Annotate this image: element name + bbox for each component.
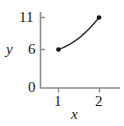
y-axis-tick-label-6: 6 (28, 42, 36, 57)
data-point-marker (97, 15, 102, 20)
data-point-marker (56, 47, 61, 52)
line-chart: 11 6 0 1 2 y x (0, 0, 124, 126)
x-axis-tick-label-2: 2 (95, 94, 103, 109)
x-axis-title: x (71, 107, 78, 122)
y-axis-title: y (6, 42, 13, 57)
origin-label: 0 (28, 80, 36, 95)
x-axis-tick-label-1: 1 (54, 94, 62, 109)
data-curve (59, 18, 100, 50)
y-axis-tick-label-11: 11 (19, 10, 33, 25)
